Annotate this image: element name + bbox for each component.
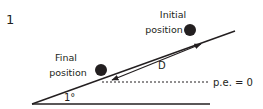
initial-position-ball <box>184 24 196 36</box>
displacement-arrow <box>112 44 201 80</box>
initial-position-label-line2: position <box>145 24 183 35</box>
angle-label: 1° <box>64 92 75 103</box>
pe-zero-label: p.e. = 0 <box>213 77 253 88</box>
figure-number: 1 <box>6 12 14 27</box>
final-position-label-line1: Final <box>55 52 77 63</box>
incline-diagram: 1 1° p.e. = 0 D Final position Initial p… <box>0 0 263 109</box>
final-position-label-line2: position <box>49 67 87 78</box>
displacement-label: D <box>158 60 166 71</box>
initial-position-label-line1: Initial <box>160 9 186 20</box>
final-position-ball <box>95 64 107 76</box>
